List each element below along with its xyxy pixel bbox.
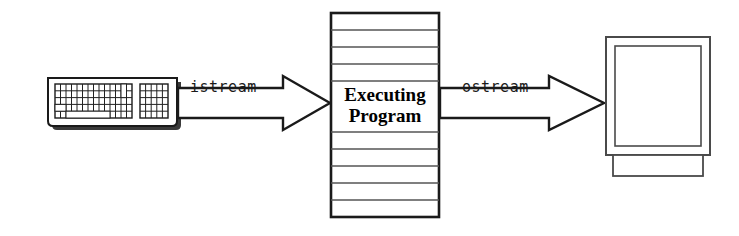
program-label-line1: Executing: [332, 84, 438, 105]
keyboard-enter-key: [121, 84, 127, 98]
program-label-line2: Program: [332, 105, 438, 126]
keyboard-space-key: [66, 111, 110, 118]
keyboard-numpad-keyblock: [140, 84, 168, 118]
monitor-screen: [615, 46, 701, 146]
monitor-base: [613, 155, 703, 176]
ostream-label: ostream: [462, 80, 529, 95]
stream-diagram: istream ostream Executing Program: [0, 0, 739, 236]
monitor-icon: [606, 37, 710, 176]
program-box-label: Executing Program: [332, 84, 438, 126]
istream-label: istream: [190, 80, 257, 95]
keyboard-shift-key: [55, 104, 66, 111]
keyboard-icon: [48, 78, 181, 130]
